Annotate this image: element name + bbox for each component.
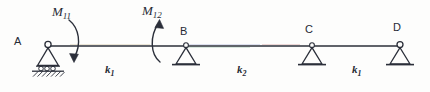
stiffness-label-k1-right: k1	[352, 64, 362, 75]
support-a-roller-2	[45, 66, 50, 71]
moment-m11-symbol: M	[52, 4, 63, 19]
support-a-roller-1	[39, 66, 44, 71]
support-c-triangle	[302, 48, 322, 64]
stiffness-k1-left-subscript: 1	[111, 69, 115, 78]
node-label-b: B	[180, 26, 188, 37]
moment-m12-subscript: 12	[153, 10, 162, 20]
moment-m11-arrowhead	[70, 54, 79, 63]
support-d-triangle	[390, 48, 410, 64]
stiffness-label-k2: k2	[237, 64, 247, 75]
moment-label-m11: M11	[52, 5, 71, 18]
moment-m12-symbol: M	[142, 3, 153, 18]
beam-diagram: A B C D M11 M12 k1 k2 k1	[0, 0, 430, 92]
moment-m11-arc	[69, 20, 79, 58]
moment-label-m12: M12	[142, 4, 161, 17]
node-label-d: D	[393, 22, 401, 33]
stiffness-k1-left-symbol: k	[105, 63, 111, 75]
stiffness-k2-symbol: k	[237, 63, 243, 75]
moment-m11-subscript: 11	[63, 11, 71, 21]
support-a-hatching	[33, 71, 65, 76]
moment-m12-arrowhead	[155, 20, 164, 29]
stiffness-label-k1-left: k1	[105, 64, 115, 75]
support-d	[386, 42, 414, 65]
support-a-roller-3	[51, 66, 56, 71]
support-a-triangle	[38, 48, 59, 66]
support-b-triangle	[176, 48, 196, 64]
stiffness-k1-right-subscript: 1	[358, 69, 362, 78]
node-label-a: A	[14, 36, 22, 47]
node-label-c: C	[305, 24, 313, 35]
moment-arrow-m12	[152, 20, 163, 63]
beam-member	[48, 45, 400, 48]
stiffness-k2-subscript: 2	[243, 69, 247, 78]
moment-arrow-m11	[69, 20, 79, 63]
stiffness-k1-right-symbol: k	[352, 63, 358, 75]
moment-m12-arc	[152, 24, 160, 62]
